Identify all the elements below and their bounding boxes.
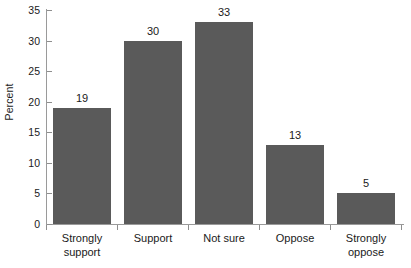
y-tick-mark (47, 163, 52, 164)
bar-item[interactable]: 30 (124, 10, 182, 224)
x-tick-mark (259, 225, 260, 230)
x-axis-label: Stronglysupport (43, 231, 121, 259)
y-axis-title: Percent (3, 67, 15, 137)
y-tick-mark (47, 193, 52, 194)
x-axis-label-line: oppose (327, 245, 405, 259)
bar-item[interactable]: 13 (266, 10, 324, 224)
x-tick-mark (188, 225, 189, 230)
y-tick-mark (47, 132, 52, 133)
bar-chart: Percent 05101520253035 193033135 Strongl… (0, 0, 411, 268)
x-tick-mark (330, 225, 331, 230)
y-tick-mark (47, 224, 52, 225)
bar-rect[interactable] (53, 108, 111, 224)
x-axis-label-line: Not sure (185, 231, 263, 245)
x-tick-mark (401, 225, 402, 230)
y-tick-mark (47, 41, 52, 42)
x-axis-label: Stronglyoppose (327, 231, 405, 259)
y-tick-label: 15 (18, 127, 40, 138)
y-tick-mark (47, 10, 52, 11)
bar-rect[interactable] (124, 41, 182, 224)
x-tick-mark (117, 225, 118, 230)
y-tick-label: 35 (18, 5, 40, 16)
x-axis-line (46, 224, 404, 225)
x-axis-label-line: Strongly (43, 231, 121, 245)
cropped-caption-strip (8, 259, 308, 268)
y-tick-label: 0 (18, 219, 40, 230)
x-axis-label-line: Oppose (256, 231, 334, 245)
bar-item[interactable]: 33 (195, 10, 253, 224)
x-axis-label: Not sure (185, 231, 263, 245)
y-tick-label: 5 (18, 188, 40, 199)
x-axis-label: Support (114, 231, 192, 245)
x-axis-label-line: Strongly (327, 231, 405, 245)
y-tick-label: 20 (18, 97, 40, 108)
bar-rect[interactable] (266, 145, 324, 224)
y-tick-label: 10 (18, 158, 40, 169)
bar-value-label: 33 (195, 7, 253, 18)
x-axis-label: Oppose (256, 231, 334, 245)
x-axis-label-line: support (43, 245, 121, 259)
bar-rect[interactable] (195, 22, 253, 224)
bar-value-label: 5 (337, 178, 395, 189)
bar-item[interactable]: 19 (53, 10, 111, 224)
x-tick-mark (46, 225, 47, 230)
y-tick-mark (47, 71, 52, 72)
bar-item[interactable]: 5 (337, 10, 395, 224)
y-tick-label: 30 (18, 36, 40, 47)
bar-value-label: 13 (266, 130, 324, 141)
bar-value-label: 30 (124, 26, 182, 37)
y-tick-mark (47, 102, 52, 103)
bar-value-label: 19 (53, 93, 111, 104)
bar-rect[interactable] (337, 193, 395, 224)
y-tick-label: 25 (18, 66, 40, 77)
x-axis-label-line: Support (114, 231, 192, 245)
